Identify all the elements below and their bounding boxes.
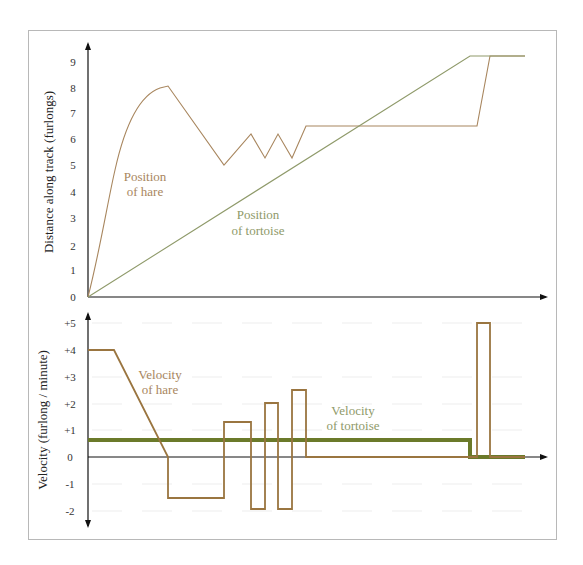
velocity-y-ticks: +5 +4 +3 +2 +1 0 -1 -2 (64, 317, 76, 517)
position-chart: 0 1 2 3 4 5 6 7 8 9 Distance along track… (41, 44, 546, 303)
tick-label: +4 (64, 344, 76, 356)
tick-label: +1 (64, 424, 76, 436)
tick-label: 1 (70, 264, 76, 276)
tick-label: +3 (64, 371, 76, 383)
tick-label: -1 (65, 478, 74, 490)
velocity-y-axis-title: Velocity (furlong / minute) (35, 350, 50, 490)
tortoise-position-label: Position (237, 207, 280, 222)
hare-position-label: Position (124, 169, 167, 184)
tortoise-velocity-label: of tortoise (326, 418, 379, 433)
position-y-axis-title: Distance along track (furlongs) (41, 91, 56, 253)
velocity-chart: +5 +4 +3 +2 +1 0 -1 -2 Velocity (furlong… (35, 314, 546, 526)
tick-label: +2 (64, 398, 76, 410)
velocity-gridlines (92, 323, 525, 511)
tortoise-position-label: of tortoise (231, 223, 284, 238)
tick-label: 6 (70, 133, 76, 145)
tick-label: 2 (70, 240, 76, 252)
race-chart: 0 1 2 3 4 5 6 7 8 9 Distance along track… (0, 0, 583, 565)
hare-velocity-label: Velocity (138, 367, 182, 382)
position-y-ticks: 0 1 2 3 4 5 6 7 8 9 (70, 56, 76, 303)
tick-label: 0 (70, 291, 76, 303)
hare-position-label: of hare (127, 184, 164, 199)
tortoise-velocity-label: Velocity (331, 403, 375, 418)
hare-velocity-line (88, 323, 525, 509)
tick-label: +5 (64, 317, 76, 329)
tick-label: 4 (70, 186, 76, 198)
tick-label: 0 (67, 451, 73, 463)
tick-label: 7 (70, 107, 76, 119)
tick-label: 9 (70, 56, 76, 68)
hare-velocity-label: of hare (142, 382, 179, 397)
tick-label: -2 (65, 505, 74, 517)
tick-label: 3 (70, 212, 76, 224)
tick-label: 5 (70, 159, 76, 171)
tick-label: 8 (70, 82, 76, 94)
